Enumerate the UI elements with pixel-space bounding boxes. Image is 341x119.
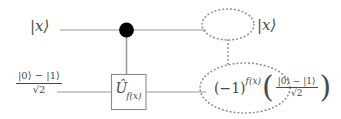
bottom-wire-input-label: |0⟩ − |1⟩ √2	[16, 71, 62, 95]
gate-label: Ûf(x)	[113, 80, 145, 99]
output-paren-open: (	[262, 76, 274, 98]
output-fraction-denominator: √2	[276, 88, 318, 98]
gate-subscript: f(x)	[126, 91, 141, 101]
input-fraction: |0⟩ − |1⟩ √2	[16, 71, 62, 95]
control-dot[interactable]	[119, 23, 134, 38]
input-fraction-numerator: |0⟩ − |1⟩	[16, 71, 62, 84]
quantum-circuit-canvas	[0, 0, 341, 119]
output-fraction: |0⟩ − |1⟩ √2	[276, 77, 318, 99]
output-fraction-numerator: |0⟩ − |1⟩	[276, 77, 318, 88]
output-exponent: f(x)	[246, 77, 261, 86]
input-fraction-denominator: √2	[16, 84, 62, 96]
bottom-wire-output-label: (−1)f(x)( |0⟩ − |1⟩ √2 )	[214, 77, 332, 99]
dotted-ellipse-top	[202, 9, 254, 40]
top-wire-input-label: |x⟩	[30, 19, 49, 34]
output-base: (−1)	[214, 81, 246, 95]
output-paren-close: )	[320, 76, 332, 98]
top-wire-output-label: |x⟩	[257, 18, 276, 33]
